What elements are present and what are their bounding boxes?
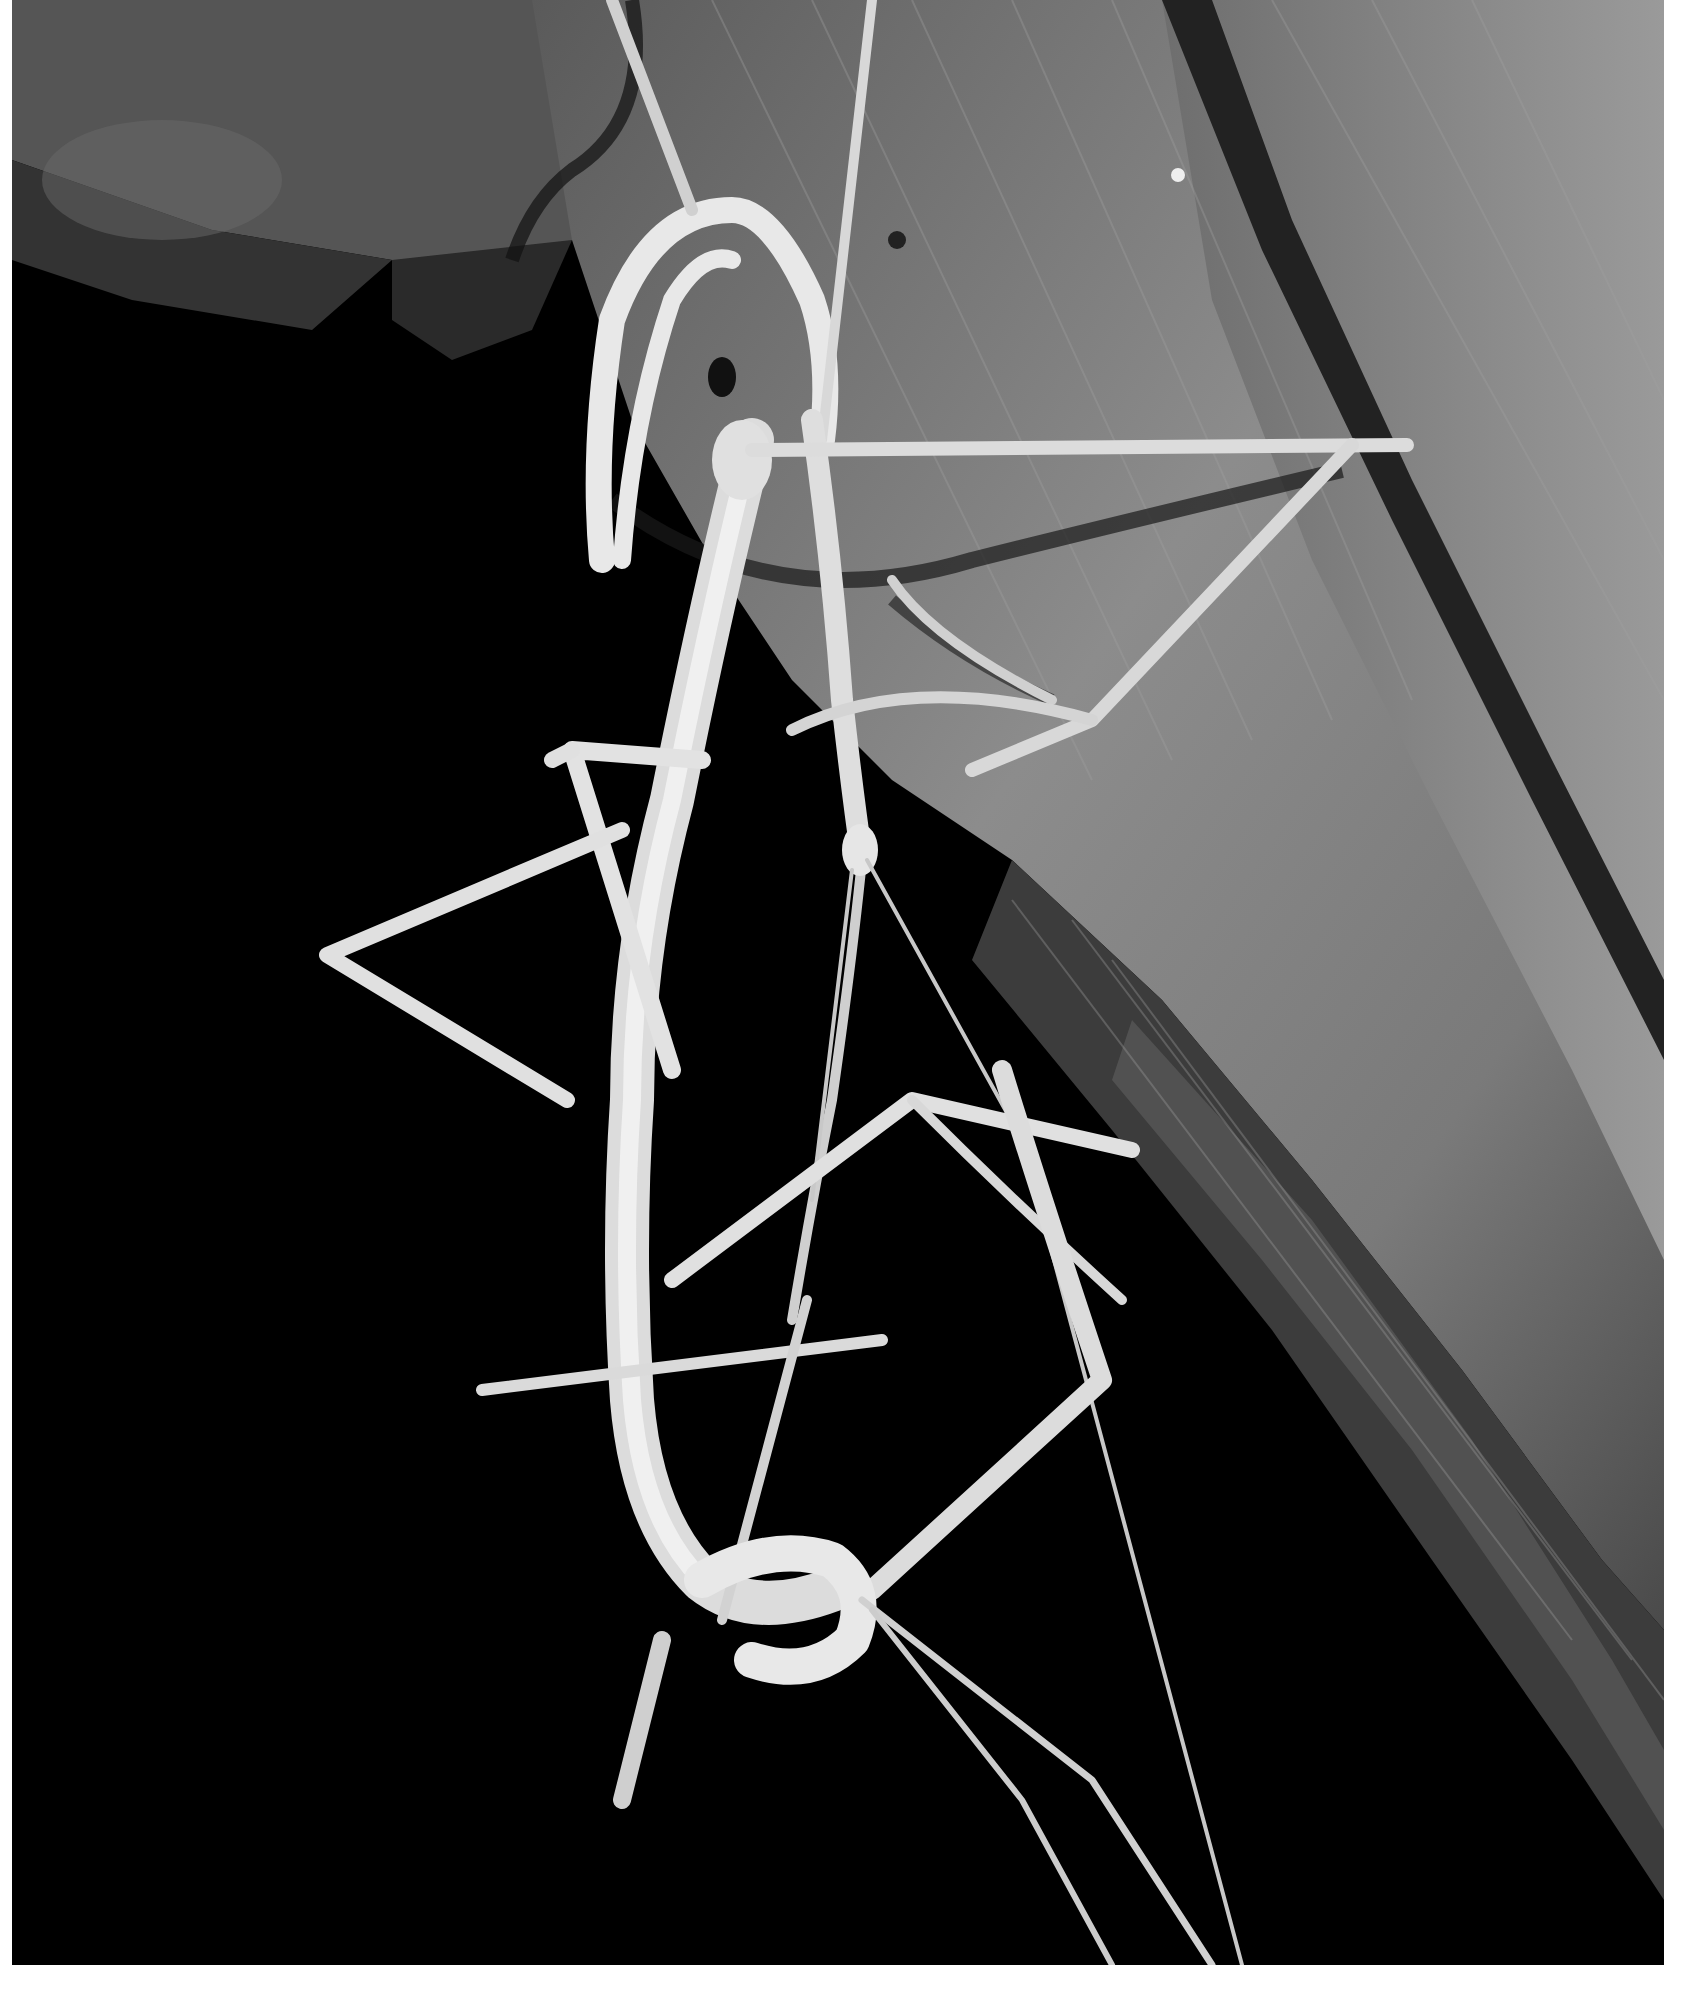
photo-illustration: [12, 0, 1664, 1965]
stick-insect-photo: Black-and-white night photograph of a ma…: [12, 0, 1664, 1965]
front-leg-right: [752, 445, 1407, 450]
